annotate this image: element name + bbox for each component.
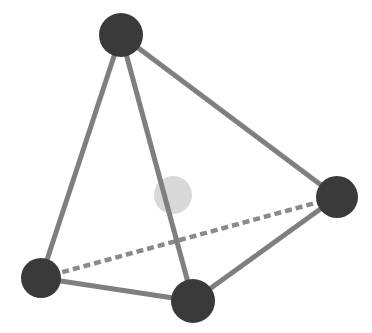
vertex-bottom-front <box>171 279 215 323</box>
tetrahedron-figure: Tetrahedron wireframe with centroid mark… <box>0 0 372 333</box>
tetrahedron-canvas: Tetrahedron wireframe with centroid mark… <box>0 0 372 333</box>
vertex-apex <box>99 13 143 57</box>
vertex-bottom-left <box>21 258 61 298</box>
vertex-right <box>316 176 358 218</box>
